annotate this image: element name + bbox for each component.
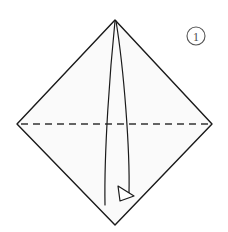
origami-diagram-canvas: 1 xyxy=(0,0,228,232)
paper-diamond-shape xyxy=(17,20,212,225)
origami-diagram-svg: 1 xyxy=(0,0,228,232)
step-number-label: 1 xyxy=(193,30,199,44)
